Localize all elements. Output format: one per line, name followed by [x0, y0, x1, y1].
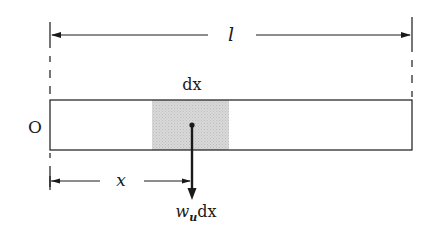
arrowhead-right-icon — [401, 32, 411, 38]
arrowhead-left-icon — [51, 32, 61, 38]
beam — [50, 100, 412, 150]
arrowhead-left-icon — [51, 179, 60, 184]
length-label: l — [228, 23, 234, 45]
arrowhead-down-icon — [188, 188, 197, 200]
arrowhead-right-icon — [182, 179, 191, 184]
load-label: wudx — [176, 202, 217, 224]
element-width-label: dx — [182, 75, 201, 94]
origin-label: O — [28, 117, 42, 137]
beam-diagram: l O dx x wudx — [0, 0, 438, 229]
position-label: x — [116, 170, 126, 190]
